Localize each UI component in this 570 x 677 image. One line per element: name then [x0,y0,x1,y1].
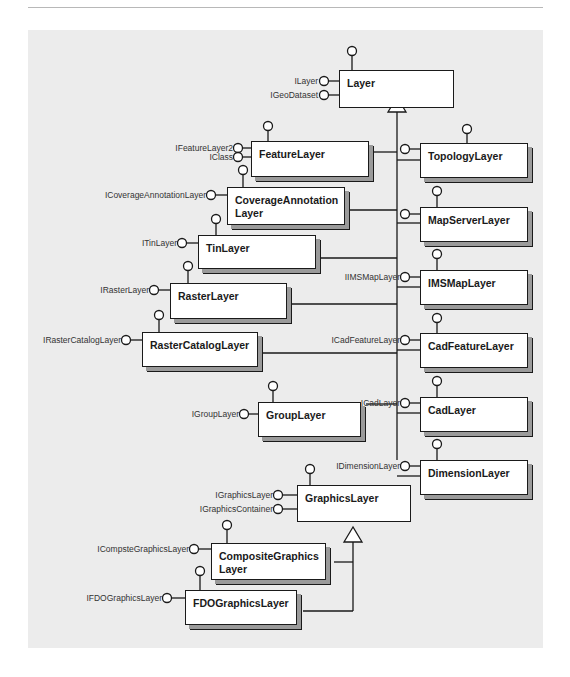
interface-label: IFDOGraphicsLayer [86,593,162,603]
class-name: DimensionLayer [428,467,510,480]
class-name: GroupLayer [266,409,326,422]
class-name: TopologyLayer [428,150,502,163]
class-tinlayer: TinLayer [198,235,316,269]
interface-label: IDimensionLayer [336,461,400,471]
interface-label: IGraphicsContainer [200,504,273,514]
class-name: FDOGraphicsLayer [193,597,289,610]
class-name: FeatureLayer [259,148,325,161]
class-name: RasterCatalogLayer [150,339,249,352]
interface-label: IIMSMapLayer [345,272,400,282]
class-compositegraphicslayer: CompositeGraphics Layer [211,543,326,580]
interface-label: IRasterCatalogLayer [43,335,121,345]
interface-label: IGraphicsLayer [215,490,273,500]
interface-label: ILayer [294,76,318,86]
interface-label: ICadFeatureLayer [331,335,400,345]
class-coverageannotationlayer: CoverageAnnotation Layer [227,187,345,225]
interface-label: IGeoDataset [270,90,318,100]
class-rasterlayer: RasterLayer [170,283,287,319]
class-grouplayer: GroupLayer [258,402,361,437]
interface-label: ICadLayer [361,398,400,408]
interface-label: ICompsteGraphicsLayer [97,544,189,554]
class-rastercataloglayer: RasterCatalogLayer [142,332,258,367]
class-layer: Layer [339,70,454,108]
class-topologylayer: TopologyLayer [420,143,528,178]
interface-label: ITinLayer [142,238,177,248]
class-dimensionlayer: DimensionLayer [420,460,528,495]
class-fdographicslayer: FDOGraphicsLayer [185,590,297,625]
class-name: IMSMapLayer [428,277,496,290]
class-cadfeaturelayer: CadFeatureLayer [420,333,528,368]
class-graphicslayer: GraphicsLayer [297,485,411,522]
class-featurelayer: FeatureLayer [251,141,369,177]
interface-label: IClass [209,152,233,162]
class-name: CadFeatureLayer [428,340,514,353]
interface-label: IRasterLayer [100,285,149,295]
class-name: TinLayer [206,242,250,255]
class-imsmaplayer: IMSMapLayer [420,270,528,305]
class-cadlayer: CadLayer [420,397,528,432]
interface-label: IGroupLayer [192,409,239,419]
class-name: CadLayer [428,404,476,417]
class-mapserverlayer: MapServerLayer [420,207,528,242]
class-name: GraphicsLayer [305,492,379,505]
class-name: MapServerLayer [428,214,510,227]
class-name: RasterLayer [178,290,239,303]
class-name: CoverageAnnotation Layer [235,194,338,220]
class-name: Layer [347,77,375,90]
interface-label: ICoverageAnnotationLayer [105,190,206,200]
class-name: CompositeGraphics Layer [219,550,319,576]
